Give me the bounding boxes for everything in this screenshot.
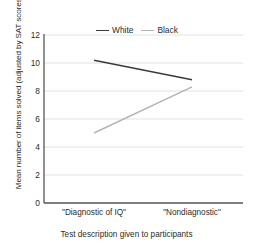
y-axis-label: Mean number of items solved (adjusted by… xyxy=(14,0,23,193)
chart-figure: Mean number of items solved (adjusted by… xyxy=(0,0,253,252)
x-axis-label: Test description given to participants xyxy=(0,230,253,239)
legend-label-black: Black xyxy=(157,25,177,35)
y-tick-label: 4 xyxy=(35,143,40,151)
y-tick-label: 10 xyxy=(31,59,40,67)
series-lines xyxy=(94,60,192,133)
y-tick-label: 12 xyxy=(31,31,40,39)
legend-label-white: White xyxy=(112,25,133,35)
series-line-black xyxy=(94,87,192,133)
x-tick-label-nondiagnostic: "Nondiagnostic" xyxy=(163,208,221,217)
y-tick-label: 6 xyxy=(35,115,40,123)
legend-swatch-white xyxy=(96,30,109,31)
chart-canvas xyxy=(44,35,243,203)
legend-item-white: White xyxy=(96,25,133,35)
x-tick-label-diagnostic: "Diagnostic of IQ" xyxy=(62,208,126,217)
y-tick-label: 8 xyxy=(35,87,40,95)
legend-item-black: Black xyxy=(141,25,177,35)
gridlines xyxy=(44,35,243,175)
y-tick-label: 0 xyxy=(35,199,40,207)
chart-legend: White Black xyxy=(96,25,178,35)
plot-area: 12 10 8 6 4 2 0 xyxy=(44,35,243,203)
legend-swatch-black xyxy=(141,30,154,31)
y-tick-label: 2 xyxy=(35,171,40,179)
